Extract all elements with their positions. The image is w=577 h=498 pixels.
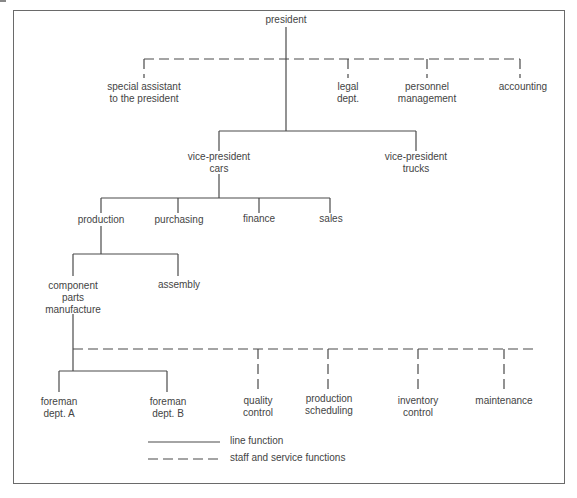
node-inventory-control: inventory control xyxy=(398,395,439,419)
org-chart-connectors xyxy=(0,0,577,498)
node-vp-cars: vice-president cars xyxy=(188,151,250,175)
node-personnel-management: personnel management xyxy=(398,81,456,105)
node-purchasing: purchasing xyxy=(155,214,204,226)
node-quality-control: quality control xyxy=(243,395,273,419)
node-maintenance: maintenance xyxy=(475,395,532,407)
node-production-scheduling: production scheduling xyxy=(305,393,353,417)
node-foreman-dept-b: foreman dept. B xyxy=(150,396,187,420)
node-president: president xyxy=(265,14,306,26)
node-finance: finance xyxy=(243,213,275,225)
staff-function-connectors xyxy=(73,59,534,393)
node-production: production xyxy=(78,214,125,226)
legend-staff-functions: staff and service functions xyxy=(230,452,345,464)
node-special-assistant: special assistant to the president xyxy=(107,81,180,105)
node-assembly: assembly xyxy=(158,279,200,291)
node-accounting: accounting xyxy=(499,81,547,93)
node-foreman-dept-a: foreman dept. A xyxy=(41,396,78,420)
legend-line-function: line function xyxy=(230,435,283,447)
node-component-parts-manufacture: component parts manufacture xyxy=(45,280,101,316)
node-vp-trucks: vice-president trucks xyxy=(385,151,447,175)
node-sales: sales xyxy=(319,213,342,225)
node-legal-dept: legal dept. xyxy=(337,81,359,105)
